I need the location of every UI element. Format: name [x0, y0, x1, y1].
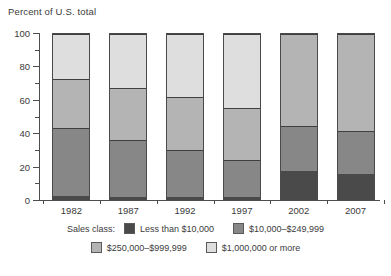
bar-segment-1992-2 [167, 97, 203, 150]
bar-segment-1987-3 [110, 34, 146, 88]
x-axis-label-1997: 1997 [212, 205, 272, 216]
legend-item-1[interactable]: $10,000–$249,999 [233, 223, 324, 234]
x-tick-1992 [214, 200, 215, 204]
y-tick-label-80: 80 [19, 61, 30, 72]
bar-segment-1982-2 [53, 79, 89, 129]
y-axis-title: Percent of U.S. total [8, 6, 96, 17]
bar-segment-2002-1 [281, 126, 317, 171]
x-axis-label-1987: 1987 [98, 205, 158, 216]
bar-2007[interactable] [337, 33, 375, 200]
y-tick-80 [33, 66, 39, 67]
y-tick-20 [33, 167, 39, 168]
bar-segment-2007-0 [338, 174, 374, 199]
y-tick-0 [33, 200, 39, 201]
legend-label-2: $250,000–$999,999 [107, 243, 187, 253]
bar-segment-1987-2 [110, 88, 146, 139]
y-tick-label-60: 60 [19, 94, 30, 105]
y-tick-minor-50 [35, 117, 39, 118]
bar-segment-1997-1 [224, 160, 260, 196]
y-tick-minor-30 [35, 150, 39, 151]
legend-label-0: Less than $10,000 [140, 224, 214, 234]
legend-row-1: Sales class: Less than $10,000 $10,000–$… [0, 219, 391, 238]
y-tick-label-0: 0 [25, 195, 30, 206]
bar-segment-1997-2 [224, 108, 260, 160]
bar-segment-1987-1 [110, 140, 146, 197]
bar-segment-2007-1 [338, 131, 374, 174]
bar-segment-1982-0 [53, 196, 89, 199]
bar-segment-2007-2 [338, 34, 374, 131]
y-tick-label-100: 100 [14, 28, 30, 39]
bar-segment-1997-3 [224, 34, 260, 108]
y-tick-minor-70 [35, 83, 39, 84]
y-tick-60 [33, 100, 39, 101]
bar-1987[interactable] [109, 33, 147, 200]
x-axis-label-2007: 2007 [326, 205, 386, 216]
legend-row-2: $250,000–$999,999 $1,000,000 or more [0, 238, 391, 257]
bar-segment-1997-0 [224, 197, 260, 199]
y-tick-label-40: 40 [19, 128, 30, 139]
y-tick-100 [33, 33, 39, 34]
bar-segment-2002-0 [281, 171, 317, 199]
bar-2002[interactable] [280, 33, 318, 200]
y-tick-label-20: 20 [19, 161, 30, 172]
chart-legend: Sales class: Less than $10,000 $10,000–$… [0, 219, 391, 257]
legend-swatch-icon-1 [233, 223, 244, 234]
x-tick-1997 [270, 200, 271, 204]
bar-segment-1992-0 [167, 197, 203, 199]
plot-area: 020406080100 198219871992199720022007 [39, 33, 380, 200]
bar-1992[interactable] [166, 33, 204, 200]
bar-segment-1982-3 [53, 34, 89, 79]
x-tick-2007 [384, 200, 385, 204]
legend-title: Sales class: [67, 224, 115, 234]
x-tick-origin [43, 200, 44, 204]
bar-1982[interactable] [52, 33, 90, 200]
legend-item-3[interactable]: $1,000,000 or more [206, 242, 301, 253]
y-tick-minor-10 [35, 183, 39, 184]
legend-label-3: $1,000,000 or more [222, 243, 301, 253]
legend-item-0[interactable]: Less than $10,000 [124, 223, 214, 234]
y-tick-minor-90 [35, 50, 39, 51]
x-axis-label-1992: 1992 [155, 205, 215, 216]
x-axis-label-1982: 1982 [41, 205, 101, 216]
x-tick-1987 [157, 200, 158, 204]
legend-label-1: $10,000–$249,999 [249, 224, 324, 234]
x-tick-2002 [327, 200, 328, 204]
bar-segment-1992-1 [167, 150, 203, 197]
legend-swatch-icon-0 [124, 223, 135, 234]
y-tick-40 [33, 133, 39, 134]
bar-segment-1992-3 [167, 34, 203, 97]
bar-segment-2002-2 [281, 34, 317, 126]
x-tick-1982 [100, 200, 101, 204]
stacked-bar-chart: Percent of U.S. total 020406080100 19821… [0, 0, 391, 276]
x-axis-label-2002: 2002 [269, 205, 329, 216]
bar-segment-1987-0 [110, 197, 146, 199]
legend-swatch-icon-3 [206, 242, 217, 253]
bar-1997[interactable] [223, 33, 261, 200]
x-axis-line [39, 200, 380, 201]
y-axis-line [39, 33, 40, 200]
bar-segment-1982-1 [53, 128, 89, 196]
legend-swatch-icon-2 [91, 242, 102, 253]
legend-item-2[interactable]: $250,000–$999,999 [91, 242, 187, 253]
